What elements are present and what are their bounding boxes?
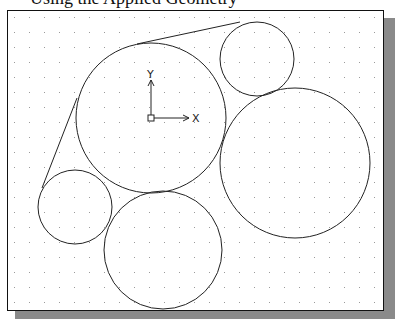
line-left-tangent: [42, 98, 77, 188]
circle-left-small: [38, 170, 112, 244]
circle-right-large: [220, 88, 370, 238]
geometry: [38, 22, 370, 309]
grid-dots: [14, 17, 375, 303]
circle-bottom-medium: [104, 191, 222, 309]
circle-top-right-small: [220, 22, 294, 96]
ucs-x-label: X: [192, 112, 200, 125]
drawing-canvas[interactable]: XY: [0, 0, 397, 319]
ucs-icon: XY: [146, 68, 200, 125]
circle-center-large: [76, 43, 226, 193]
ucs-y-label: Y: [146, 68, 154, 81]
